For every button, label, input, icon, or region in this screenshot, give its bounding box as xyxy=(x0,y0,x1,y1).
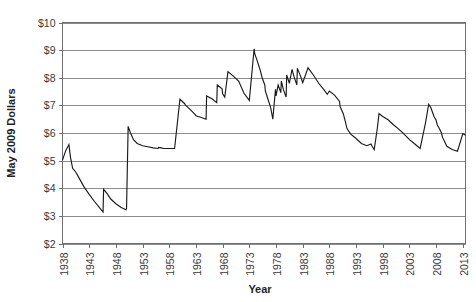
y-tick-label: $10 xyxy=(38,17,56,29)
x-tick-label: 1983 xyxy=(298,252,310,276)
y-tick-label: $7 xyxy=(44,99,56,111)
y-tick-label: $2 xyxy=(44,238,56,250)
x-tick-label: 2003 xyxy=(404,252,416,276)
x-tick-label: 1953 xyxy=(138,252,150,276)
y-tick-label: $5 xyxy=(44,155,56,167)
x-tick-label: 1963 xyxy=(191,252,203,276)
x-tick-label: 1968 xyxy=(218,252,230,276)
x-tick-label: 2008 xyxy=(431,252,443,276)
chart-container: $2$3$4$5$6$7$8$9$10 19381943194819531958… xyxy=(0,0,476,302)
x-axis-title: Year xyxy=(248,283,272,295)
y-tick-marks-group xyxy=(59,24,63,245)
y-tick-label: $6 xyxy=(44,127,56,139)
gridlines-group xyxy=(63,24,466,245)
y-axis-title: May 2009 Dollars xyxy=(5,88,17,177)
x-tick-label: 1993 xyxy=(351,252,363,276)
y-tick-label: $9 xyxy=(44,44,56,56)
x-tick-label: 1938 xyxy=(58,252,70,276)
y-tick-label: $3 xyxy=(44,210,56,222)
x-tick-label: 1998 xyxy=(378,252,390,276)
y-axis-tick-labels: $2$3$4$5$6$7$8$9$10 xyxy=(38,17,56,250)
x-tick-label: 1988 xyxy=(324,252,336,276)
x-tick-label: 1958 xyxy=(164,252,176,276)
data-series-line xyxy=(63,49,466,212)
y-tick-label: $8 xyxy=(44,72,56,84)
y-tick-label: $4 xyxy=(44,182,56,194)
x-axis-tick-labels: 1938194319481953195819631968197319781983… xyxy=(58,252,470,276)
x-tick-label: 1948 xyxy=(111,252,123,276)
x-tick-label: 1978 xyxy=(271,252,283,276)
x-tick-label: 1973 xyxy=(244,252,256,276)
x-tick-label: 2013 xyxy=(458,252,470,276)
x-tick-label: 1943 xyxy=(84,252,96,276)
line-chart: $2$3$4$5$6$7$8$9$10 19381943194819531958… xyxy=(0,0,476,302)
